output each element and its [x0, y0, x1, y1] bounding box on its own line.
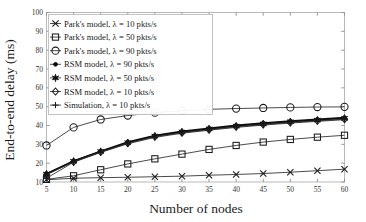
legend-item-label: RSM model, λ = 10 pkts/s: [64, 87, 155, 97]
x-tick-label: 30: [178, 185, 186, 194]
x-axis-title: Number of nodes: [149, 201, 243, 216]
legend-item-0[interactable]: Park's model, λ = 10 pkts/s: [50, 19, 157, 29]
chart-legend: Park's model, λ = 10 pkts/sPark's model,…: [49, 15, 213, 115]
x-tick-label: 40: [232, 185, 240, 194]
y-tick-label: 20: [36, 159, 44, 168]
y-tick-label: 60: [36, 83, 44, 92]
legend-item-label: RSM model, λ = 50 pkts/s: [64, 73, 155, 83]
legend-item-3[interactable]: RSM model, λ = 90 pkts/s: [50, 59, 155, 69]
x-tick-label: 60: [341, 185, 349, 194]
y-tick-label: 30: [36, 140, 44, 149]
legend-item-5[interactable]: RSM model, λ = 10 pkts/s: [50, 87, 155, 97]
x-tick-label: 20: [124, 185, 132, 194]
legend-item-6[interactable]: Simulation, λ = 10 pkts/s: [50, 100, 151, 110]
x-tick-label: 45: [259, 185, 267, 194]
legend-item-label: Park's model, λ = 90 pkts/s: [64, 46, 157, 56]
x-tick-label: 55: [314, 185, 322, 194]
y-tick-label: 10: [36, 178, 44, 187]
x-tick-label: 5: [45, 185, 49, 194]
filled-dot-marker: [54, 62, 58, 66]
y-tick-label: 80: [36, 46, 44, 55]
x-tick-label: 15: [97, 185, 105, 194]
legend-entries: Park's model, λ = 10 pkts/sPark's model,…: [50, 19, 157, 111]
y-tick-label: 50: [36, 102, 44, 111]
y-axis-title: End-to-end delay (ms): [2, 39, 17, 160]
legend-item-label: Park's model, λ = 50 pkts/s: [64, 32, 157, 42]
legend-item-label: Simulation, λ = 10 pkts/s: [64, 100, 151, 110]
legend-item-label: RSM model, λ = 90 pkts/s: [64, 59, 155, 69]
legend-item-4[interactable]: RSM model, λ = 50 pkts/s: [50, 73, 155, 83]
x-tick-label: 10: [70, 185, 78, 194]
legend-item-label: Park's model, λ = 10 pkts/s: [64, 19, 157, 29]
chart-figure: 51015202530354045505560 1020304050607080…: [0, 0, 366, 222]
y-tick-label: 40: [36, 121, 44, 130]
y-tick-label: 100: [32, 8, 44, 17]
legend-item-1[interactable]: Park's model, λ = 50 pkts/s: [50, 32, 157, 42]
y-tick-label: 70: [36, 65, 44, 74]
x-tick-label: 50: [287, 185, 295, 194]
y-tick-label: 90: [36, 27, 44, 36]
legend-item-2[interactable]: Park's model, λ = 90 pkts/s: [50, 46, 157, 56]
x-tick-label: 35: [205, 185, 213, 194]
x-tick-label: 25: [151, 185, 159, 194]
